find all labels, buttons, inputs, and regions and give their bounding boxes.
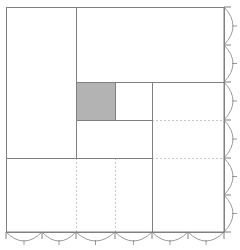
highlighted-cell-rect <box>76 82 115 120</box>
treemap-figure <box>0 0 240 250</box>
plot-canvas <box>0 0 240 250</box>
highlight-cell-group <box>76 82 115 120</box>
figure-background <box>0 0 240 250</box>
